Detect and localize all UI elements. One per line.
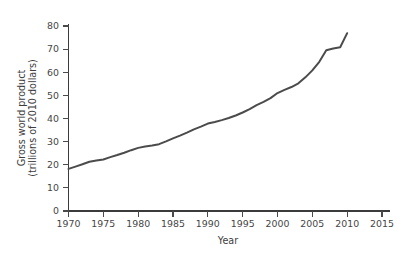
y-axis-title-line2: (trillions of 2010 dollars): [27, 59, 38, 177]
y-axis-title-line1: Gross world product: [16, 70, 27, 167]
x-tick-label-1985: 1985: [161, 218, 185, 229]
y-axis-ticks: 0 10 20 30 40 50 60 70 80: [47, 20, 68, 216]
y-tick-label-80: 80: [47, 20, 59, 31]
x-axis-ticks: 1970 1975 1980 1985 1990 1995 2000 2005 …: [57, 211, 394, 229]
y-tick-label-20: 20: [47, 159, 59, 170]
gross-world-product-line-chart: 0 10 20 30 40 50 60 70 80 1970 1975: [0, 0, 416, 260]
x-tick-label-2005: 2005: [300, 218, 324, 229]
x-axis-title: Year: [217, 235, 238, 246]
x-tick-label-1975: 1975: [91, 218, 115, 229]
x-tick-label-1980: 1980: [126, 218, 150, 229]
x-tick-label-1995: 1995: [231, 218, 255, 229]
y-tick-label-30: 30: [47, 136, 59, 147]
y-tick-label-10: 10: [47, 182, 59, 193]
y-tick-label-70: 70: [47, 43, 59, 54]
x-tick-label-2000: 2000: [266, 218, 290, 229]
series-line-gross-world-product: [69, 33, 348, 169]
y-tick-label-60: 60: [47, 67, 59, 78]
x-tick-label-1990: 1990: [196, 218, 220, 229]
y-tick-label-40: 40: [47, 113, 59, 124]
chart-container: 0 10 20 30 40 50 60 70 80 1970 1975: [0, 0, 416, 260]
x-tick-label-2010: 2010: [335, 218, 359, 229]
y-tick-label-0: 0: [53, 205, 59, 216]
x-tick-label-2015: 2015: [370, 218, 394, 229]
x-tick-label-1970: 1970: [57, 218, 81, 229]
y-tick-label-50: 50: [47, 90, 59, 101]
